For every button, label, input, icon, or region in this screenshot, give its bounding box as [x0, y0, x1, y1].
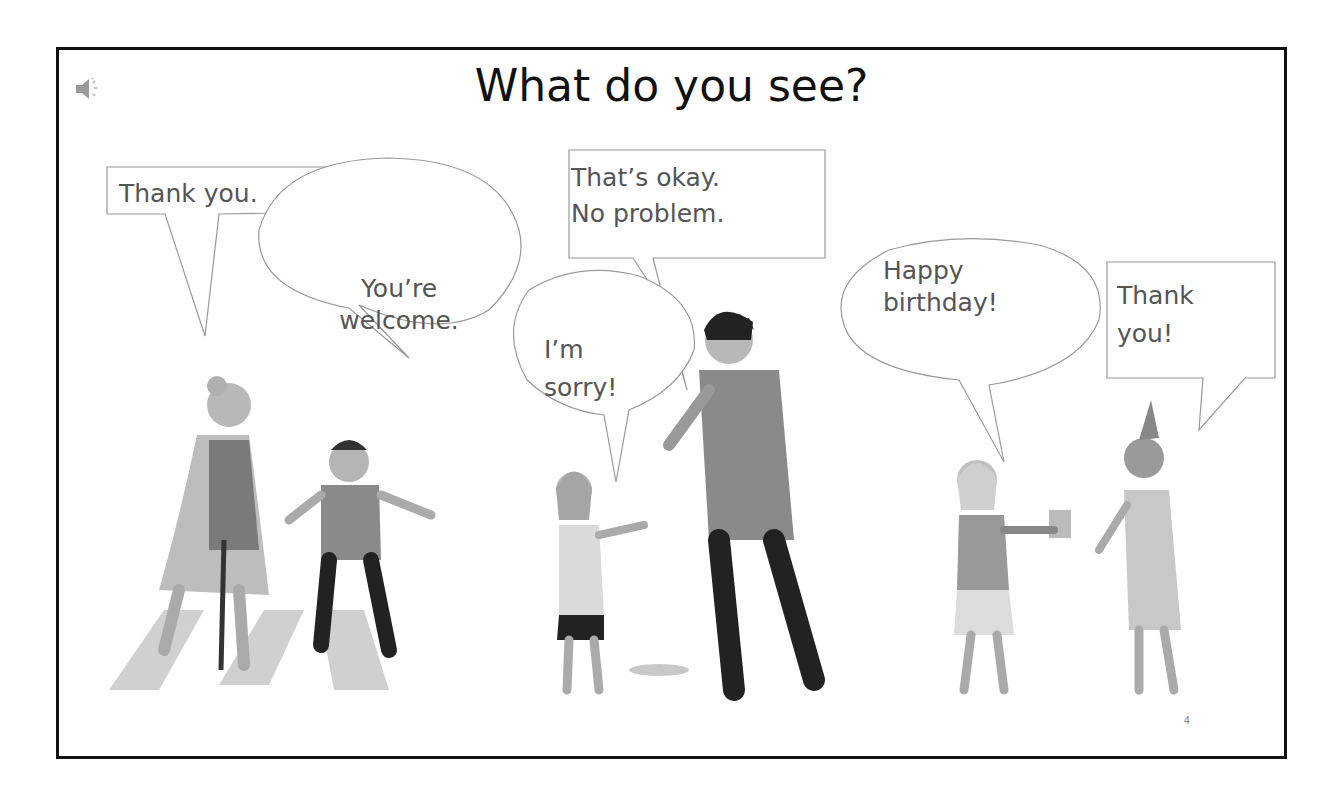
girl-with-gift-figure: [954, 460, 1071, 690]
illustration-layer: [59, 50, 1290, 762]
grandmother-figure: [159, 376, 269, 670]
girl-sorry-figure: [556, 472, 644, 691]
slide: What do you see? Thank you. You’re welco…: [56, 47, 1287, 759]
spilled-item: [629, 664, 689, 676]
party-hat: [1139, 400, 1159, 440]
page-number: 4: [1184, 715, 1190, 726]
man-figure: [669, 312, 814, 690]
girl-with-party-hat-figure: [1099, 400, 1181, 690]
